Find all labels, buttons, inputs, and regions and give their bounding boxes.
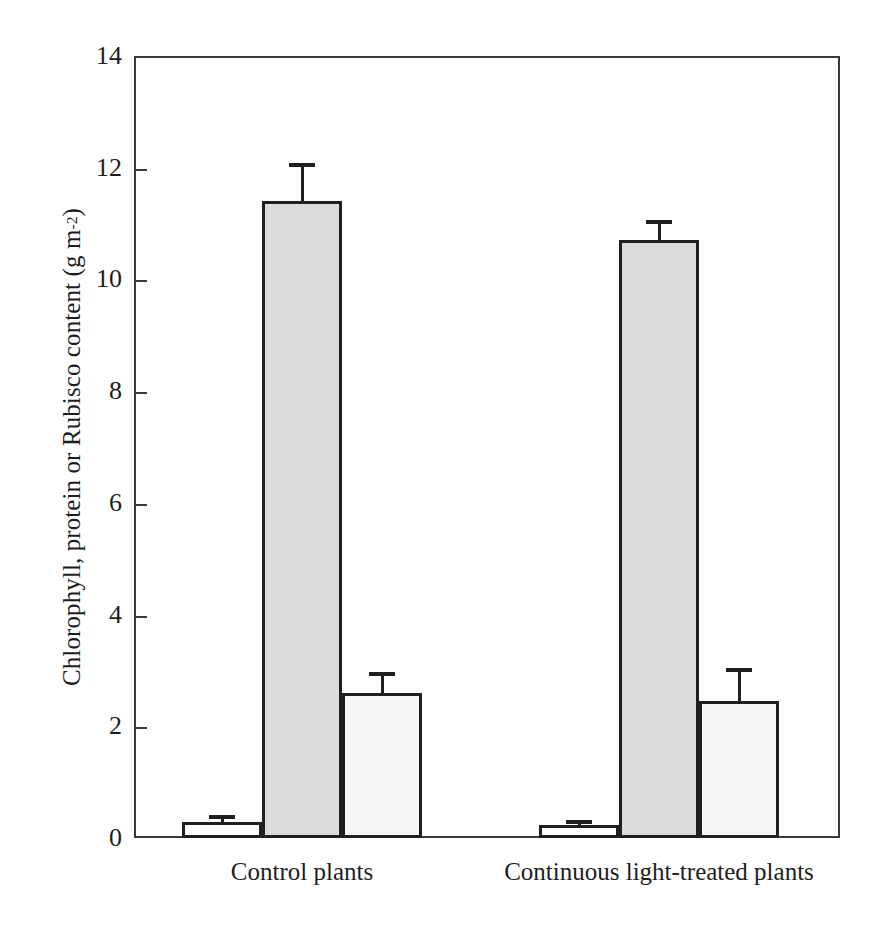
y-axis-tick-mark [136,504,147,506]
y-axis-tick-label: 14 [66,43,122,69]
y-axis-tick-label: 0 [66,825,122,851]
y-axis-tick-mark [136,169,147,171]
y-axis-tick-label: 10 [66,266,122,292]
y-axis-tick-labels: 02468101214 [66,0,122,939]
y-axis-tick-mark [136,392,147,394]
x-axis-category-label-continuous-light: Continuous light-treated plants [409,858,885,886]
y-axis-tick-mark [136,616,147,618]
bar-chart-figure: Chlorophyll, protein or Rubisco content … [0,0,885,939]
y-axis-tick-label: 6 [66,490,122,516]
y-axis-tick-label: 8 [66,378,122,404]
y-axis-tick-label: 12 [66,155,122,181]
y-axis-tick-mark [136,727,147,729]
y-axis-tick-label: 2 [66,713,122,739]
y-axis-tick-mark [136,280,147,282]
y-axis-tick-label: 4 [66,602,122,628]
plot-frame [134,56,840,838]
